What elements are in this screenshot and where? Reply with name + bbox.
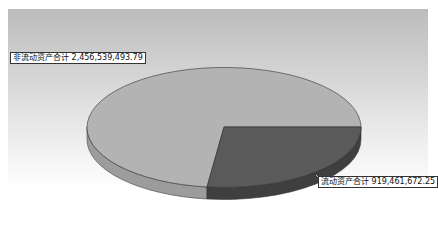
- data-label-non-current: 非流动资产合计 2,456,539,493.79: [10, 52, 146, 64]
- data-label-current: 流动资产合计 919,461,672.25: [318, 176, 438, 188]
